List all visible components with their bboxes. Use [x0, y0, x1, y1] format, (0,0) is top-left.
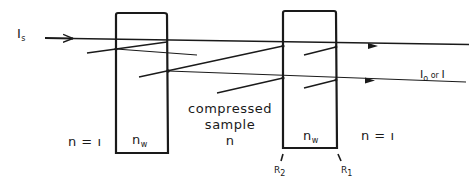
r2-marker	[281, 154, 283, 161]
sample-label-line2: sample	[175, 118, 285, 131]
left-window-index-label: nw	[132, 133, 148, 149]
diagram-canvas	[0, 0, 469, 188]
sample-label-line3: n	[175, 134, 285, 147]
output-arrow-1	[368, 43, 378, 49]
r1-marker	[338, 154, 341, 161]
sample-label: compressed sample n	[175, 102, 285, 147]
outer-medium-right-label: n = ı	[361, 129, 395, 142]
right-window-index-label: nw	[303, 129, 319, 145]
reflected-ray-5	[304, 80, 336, 88]
r2-label: R2	[274, 166, 285, 178]
reflected-ray-4	[304, 47, 336, 55]
r1-label: R1	[341, 166, 352, 178]
reflected-ray-3	[217, 78, 283, 93]
transmitted-ray-1	[116, 49, 197, 55]
main-ray	[72, 39, 469, 45]
outer-medium-left-label: n = ı	[68, 135, 102, 148]
output-intensity-label: Io or I	[420, 69, 445, 83]
sample-label-line1: compressed	[175, 102, 285, 115]
incident-arrow	[45, 38, 73, 39]
left-window	[116, 13, 168, 153]
incident-intensity-label: Is	[17, 27, 26, 43]
